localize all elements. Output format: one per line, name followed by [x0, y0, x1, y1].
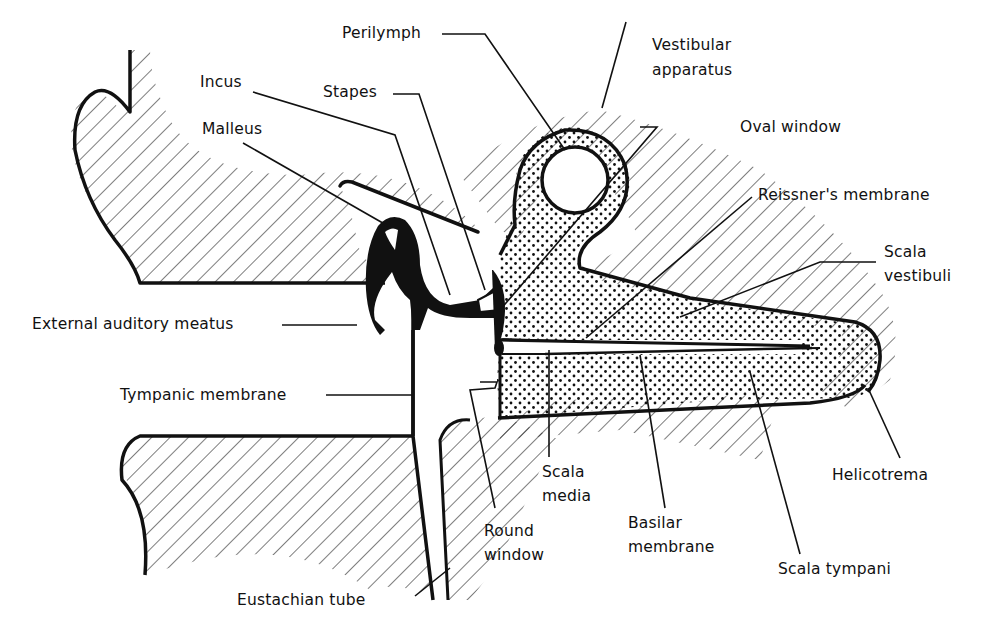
vestibular-apparatus [542, 147, 608, 213]
label-helicotrema: Helicotrema [832, 466, 928, 484]
label-eustachian-tube: Eustachian tube [237, 591, 365, 609]
label-vestibular-apparatus-line2: apparatus [652, 61, 732, 79]
label-stapes: Stapes [323, 83, 377, 101]
label-tympanic-membrane: Tympanic membrane [120, 386, 286, 404]
label-reissners-membrane: Reissner's membrane [758, 186, 930, 204]
label-oval-window: Oval window [740, 118, 841, 136]
label-round-window-line1: Round [484, 522, 534, 540]
label-scala-vestibuli-line2: vestibuli [884, 267, 951, 285]
label-perilymph: Perilymph [342, 24, 421, 42]
label-basilar-membrane-line1: Basilar [628, 514, 682, 532]
label-external-auditory-meatus: External auditory meatus [32, 315, 234, 333]
label-vestibular-apparatus-line1: Vestibular [652, 36, 731, 54]
label-basilar-membrane-line2: membrane [628, 538, 714, 556]
round-window-membrane [494, 340, 504, 356]
label-incus: Incus [200, 73, 242, 91]
label-scala-vestibuli-line1: Scala [884, 243, 927, 261]
label-scala-media-line1: Scala [542, 463, 585, 481]
label-malleus: Malleus [202, 120, 262, 138]
label-scala-media-line2: media [542, 487, 591, 505]
label-scala-tympani: Scala tympani [778, 560, 891, 578]
label-round-window-line2: window [484, 546, 544, 564]
